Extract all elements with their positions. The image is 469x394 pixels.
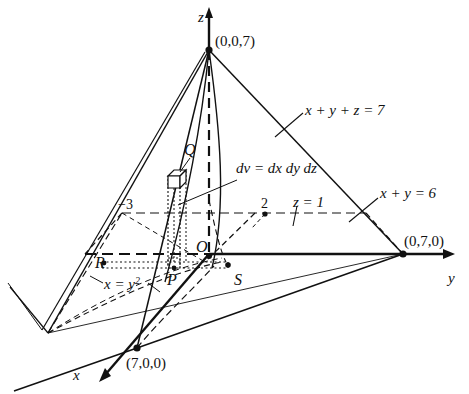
parabola-vertical-trace — [48, 213, 122, 333]
point-r-label: R — [94, 254, 105, 271]
tick-minus-three-label: −3 — [118, 197, 133, 212]
z-intercept-label: (0,0,7) — [215, 33, 255, 50]
marker-y-intercept — [399, 250, 406, 257]
x-intercept-label: (7,0,0) — [126, 355, 166, 372]
parabola-leader-2 — [148, 283, 160, 292]
parabola-leader — [90, 276, 103, 283]
point-q-label: Q — [184, 141, 196, 158]
tick-two-leader — [252, 214, 265, 228]
base-footprint-group — [102, 258, 228, 268]
dv-box-front — [168, 176, 180, 188]
math-diagram: z y x (0,0,7) (0,7,0) (7,0,0) O P Q R S … — [0, 0, 469, 394]
text-labels-group: z y x (0,0,7) (0,7,0) (7,0,0) O P Q R S … — [72, 9, 455, 383]
y-axis-arrowhead — [443, 249, 455, 259]
z-axis-label: z — [197, 9, 204, 25]
marker-s — [225, 262, 231, 268]
marker-z-intercept — [205, 46, 212, 53]
parabola-equation-label: x = y2 — [103, 275, 140, 292]
y-axis-label: y — [446, 270, 455, 286]
tick-two-label: 2 — [261, 196, 268, 211]
parabola-equation-base: x = y — [103, 276, 135, 292]
panel-extension-left-2 — [8, 283, 42, 330]
edge-apex-to-y — [209, 50, 403, 254]
xy6-label: x + y = 6 — [379, 185, 437, 201]
parabola-base-trace — [48, 262, 222, 333]
edge-apex-to-x — [137, 50, 209, 348]
z-axis-arrowhead — [205, 7, 213, 18]
point-s-label: S — [234, 271, 242, 288]
dv-box — [168, 170, 186, 188]
marker-p — [172, 266, 177, 271]
y-intercept-label: (0,7,0) — [404, 233, 444, 250]
annotation-leaders-group — [90, 113, 378, 292]
parabolic-sheet-right-edge — [209, 50, 221, 268]
parabola-equation-exponent: 2 — [135, 275, 140, 286]
plane-equation-label: x + y + z = 7 — [304, 102, 386, 118]
z-level-label: z = 1 — [292, 194, 324, 210]
x-axis-label: x — [72, 367, 80, 383]
figure-svg: z y x (0,0,7) (0,7,0) (7,0,0) O P Q R S … — [0, 0, 469, 394]
dashed-arc-origin-to-s — [209, 200, 226, 262]
z-level-plane-group — [85, 50, 403, 262]
marker-x-intercept — [133, 344, 140, 351]
volume-element-label: dv = dx dy dz — [236, 160, 317, 176]
point-p-label: P — [166, 271, 177, 288]
origin-label: O — [196, 238, 208, 255]
